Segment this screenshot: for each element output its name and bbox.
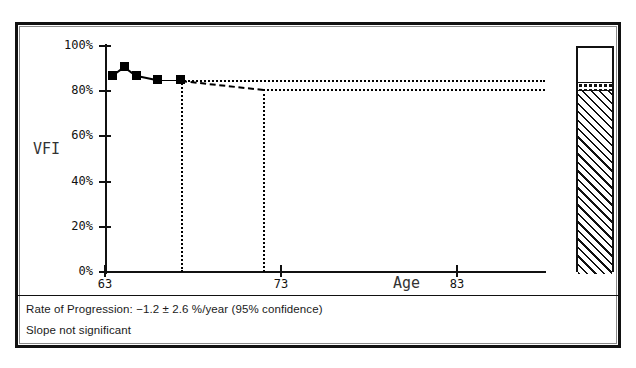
rate-of-progression-text: Rate of Progression: −1.2 ± 2.6 %/year (… (26, 303, 323, 315)
vfi-progression-report: 0%20%40%60%80%100% 637383 VFI Age Rate o… (0, 0, 636, 368)
report-frame-inner (19, 26, 617, 344)
bar-segment-remaining (578, 48, 612, 82)
bar-segment-confidence-band (578, 82, 612, 91)
y-axis-title: VFI (33, 140, 60, 158)
bar-segment-current-vfi (578, 91, 612, 274)
x-axis-title: Age (393, 274, 420, 292)
vfi-summary-bar (576, 46, 614, 272)
footer-divider (18, 295, 618, 296)
slope-significance-text: Slope not significant (26, 324, 131, 336)
